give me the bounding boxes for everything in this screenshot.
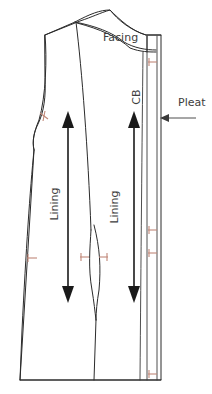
pattern-diagram: Facing CB — [0, 0, 212, 394]
center-back-label: CB — [130, 89, 143, 104]
pattern-outline-group — [20, 10, 161, 380]
lining-label-left: Lining — [48, 187, 61, 220]
pleat-callout-group: Pleat — [160, 96, 206, 122]
lining-label-right: Lining — [108, 190, 121, 223]
pattern-canvas: Facing CB — [0, 0, 212, 394]
pleat-label: Pleat — [178, 96, 206, 109]
pattern-outer-boundary — [20, 10, 161, 380]
facing-label: Facing — [103, 31, 138, 44]
